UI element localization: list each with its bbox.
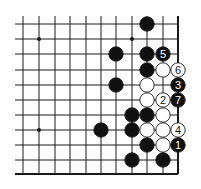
black-stone-icon [140, 47, 154, 61]
black-stone-icon [140, 138, 154, 152]
black-stone-icon [140, 108, 154, 122]
move-number-label: 1 [175, 139, 181, 151]
black-stone-icon [94, 123, 108, 137]
white-stone [140, 93, 154, 107]
move-number-label: 4 [175, 124, 181, 136]
white-stone [156, 123, 170, 137]
black-stone-icon [109, 78, 123, 92]
move-number-label: 2 [160, 94, 166, 106]
black-stone-icon [156, 153, 170, 167]
move-number-label: 5 [160, 48, 166, 60]
black-stone [109, 47, 123, 61]
black-stone [125, 123, 139, 137]
black-stone [140, 108, 154, 122]
black-stone-icon [109, 47, 123, 61]
black-stone [94, 123, 108, 137]
white-stone [140, 123, 154, 137]
star-point-icon [37, 37, 41, 41]
black-stone-icon [140, 17, 154, 31]
white-stone: 6 [171, 63, 185, 77]
black-stone [109, 78, 123, 92]
white-stone-icon [156, 123, 170, 137]
star-point-icon [37, 128, 41, 132]
black-stone-icon [125, 153, 139, 167]
white-stone-icon [156, 108, 170, 122]
white-stone [140, 78, 154, 92]
white-stone [156, 63, 170, 77]
black-stone-icon [140, 63, 154, 77]
white-stone-icon [140, 93, 154, 107]
move-number-label: 3 [175, 79, 181, 91]
white-stone-icon [140, 78, 154, 92]
move-number-label: 7 [175, 94, 181, 106]
white-stone-icon [156, 138, 170, 152]
white-stone [156, 108, 170, 122]
white-stone-icon [156, 63, 170, 77]
black-stone: 5 [156, 47, 170, 61]
black-stone: 3 [171, 78, 185, 92]
black-stone: 7 [171, 93, 185, 107]
black-stone [140, 138, 154, 152]
black-stone [140, 17, 154, 31]
white-stone-icon [140, 123, 154, 137]
black-stone [140, 47, 154, 61]
black-stone [125, 108, 139, 122]
white-stone: 2 [156, 93, 170, 107]
move-number-label: 6 [175, 64, 181, 76]
white-stone [156, 138, 170, 152]
star-point-icon [130, 37, 134, 41]
go-board: 5632741 [0, 0, 201, 189]
black-stone: 1 [171, 138, 185, 152]
black-stone-icon [125, 123, 139, 137]
black-stone [140, 63, 154, 77]
black-stone [125, 153, 139, 167]
black-stone [156, 153, 170, 167]
white-stone: 4 [171, 123, 185, 137]
black-stone-icon [125, 108, 139, 122]
